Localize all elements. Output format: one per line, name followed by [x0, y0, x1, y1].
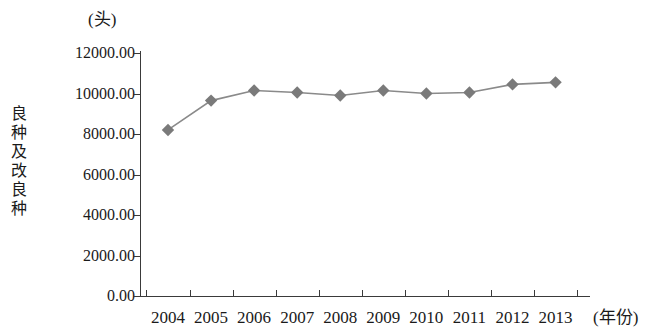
x-axis-tick-mark: [362, 290, 363, 297]
x-axis-tick-mark: [319, 290, 320, 297]
y-axis-tick-mark: [134, 94, 141, 95]
data-point-marker: [463, 86, 475, 98]
x-axis-tick-mark: [276, 290, 277, 297]
series-line: [168, 82, 556, 129]
chart-page: (头) 良种及改良种 0.002000.004000.006000.008000…: [0, 0, 655, 334]
y-axis-tick-mark: [134, 134, 141, 135]
y-axis-tick-label: 4000.00: [43, 207, 135, 223]
y-axis-tick-mark: [134, 256, 141, 257]
data-point-marker: [377, 84, 389, 96]
data-point-marker: [291, 86, 303, 98]
x-axis-tick-label: 2013: [530, 308, 582, 328]
y-axis-tick-mark: [134, 53, 141, 54]
y-axis-tick-label: 8000.00: [43, 126, 135, 142]
data-point-marker: [506, 78, 518, 90]
data-point-marker: [205, 94, 217, 106]
data-point-marker: [549, 76, 561, 88]
x-axis-tick-mark: [405, 290, 406, 297]
x-axis-tick-mark: [577, 290, 578, 297]
x-axis-title: (年份): [593, 308, 638, 328]
x-axis-tick-mark: [146, 290, 147, 297]
x-axis-tick-mark: [448, 290, 449, 297]
y-axis-tick-label: 10000.00: [43, 86, 135, 102]
y-axis-tick-labels: 0.002000.004000.006000.008000.0010000.00…: [40, 0, 135, 334]
data-point-marker: [420, 87, 432, 99]
y-axis-tick-label: 6000.00: [43, 167, 135, 183]
y-axis-tick-label: 2000.00: [43, 248, 135, 264]
x-axis-tick-mark: [534, 290, 535, 297]
data-point-marker: [162, 124, 174, 136]
x-axis-tick-mark: [233, 290, 234, 297]
y-axis-tick-label: 0.00: [43, 288, 135, 304]
y-axis-title: 良种及改良种: [6, 104, 32, 218]
y-axis-tick-label: 12000.00: [43, 45, 135, 61]
y-axis-tick-mark: [134, 296, 141, 297]
data-point-marker: [334, 89, 346, 101]
y-axis-tick-mark: [134, 215, 141, 216]
x-axis-tick-mark: [190, 290, 191, 297]
y-axis-tick-mark: [134, 175, 141, 176]
x-axis-tick-mark: [491, 290, 492, 297]
data-point-marker: [248, 84, 260, 96]
x-axis-line: [140, 296, 590, 297]
